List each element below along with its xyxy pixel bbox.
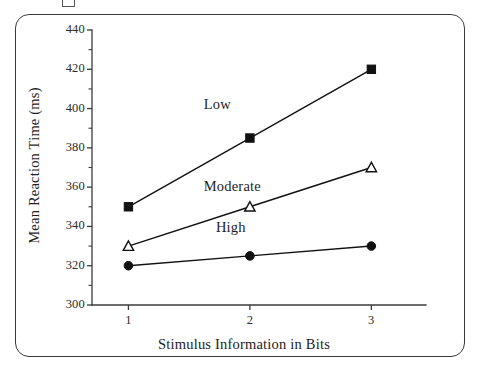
y-tick-label: 300 [51, 297, 85, 312]
y-tick-label: 380 [51, 140, 85, 155]
figure-container: 300320340360380400420440 123 LowModerate… [0, 0, 488, 382]
data-series-group [123, 65, 376, 270]
y-tick-label: 420 [51, 61, 85, 76]
marker-square-low [246, 134, 254, 142]
marker-square-low [367, 65, 375, 73]
marker-circle-high [246, 252, 255, 261]
y-tick-label: 440 [51, 22, 85, 37]
marker-circle-high [124, 261, 133, 270]
series-label-moderate: Moderate [204, 178, 261, 195]
series-label-low: Low [204, 96, 231, 113]
x-tick-label: 3 [359, 313, 383, 328]
y-tick-label: 360 [51, 179, 85, 194]
x-tick-label: 1 [116, 313, 140, 328]
y-axis-title: Mean Reaction Time (ms) [26, 56, 43, 276]
y-tick-label: 320 [51, 258, 85, 273]
y-tick-label: 340 [51, 218, 85, 233]
x-axis-title: Stimulus Information in Bits [0, 336, 488, 353]
marker-circle-high [367, 242, 376, 251]
marker-triangle-moderate [366, 162, 376, 171]
marker-square-low [124, 203, 132, 211]
series-label-high: High [216, 219, 246, 236]
y-tick-label: 400 [51, 101, 85, 116]
x-tick-label: 2 [238, 313, 262, 328]
